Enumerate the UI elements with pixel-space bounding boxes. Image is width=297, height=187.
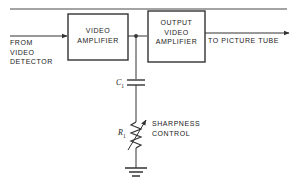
video-amplifier-label: VIDEO AMPLIFIER: [68, 26, 128, 45]
output-video-amplifier-label: OUTPUT VIDEO AMPLIFIER: [148, 18, 205, 47]
resistor-designator-subscript: 1: [123, 133, 126, 139]
schematic-diagram: FROM VIDEO DETECTOR TO PICTURE TUBE SHAR…: [0, 0, 297, 187]
input-label: FROM VIDEO DETECTOR: [10, 38, 53, 67]
output-label: TO PICTURE TUBE: [208, 36, 279, 46]
capacitor-designator: C1: [116, 78, 124, 89]
resistor-zigzag: [131, 122, 141, 148]
sharpness-control-label: SHARPNESS CONTROL: [152, 119, 200, 138]
capacitor-designator-subscript: 1: [121, 83, 124, 89]
resistor-designator: R1: [118, 128, 126, 139]
